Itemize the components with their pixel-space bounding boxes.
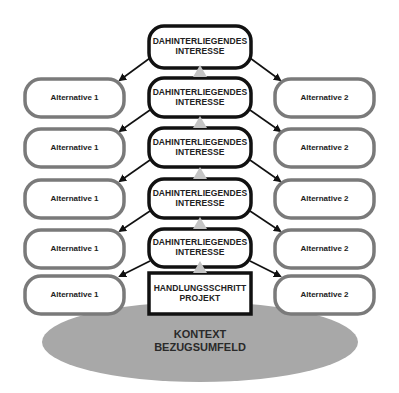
center-node-1: DAHINTERLIEGENDESINTERESSE [150,27,250,67]
center-node-3: DAHINTERLIEGENDESINTERESSE [150,129,250,166]
base-node-label: PROJEKT [154,294,247,304]
left-alternative-5: Alternative 1 [25,276,124,314]
center-node-5: DAHINTERLIEGENDESINTERESSE [150,230,250,266]
right-alternative-4: Alternative 2 [275,230,374,268]
right-alternative-5: Alternative 2 [275,276,374,314]
center-node-label: INTERESSE [153,98,248,108]
center-node-label: INTERESSE [153,148,248,158]
center-node-4: DAHINTERLIEGENDESINTERESSE [150,180,250,217]
center-node-label: INTERESSE [153,248,248,258]
right-alternative-2: Alternative 2 [275,129,374,167]
right-alternative-1: Alternative 2 [275,79,374,117]
left-alternative-4: Alternative 1 [25,230,124,268]
left-alternative-3: Alternative 1 [25,180,124,218]
context-line-1: KONTEXT [154,328,246,341]
right-alternative-3: Alternative 2 [275,180,374,218]
left-alternative-1: Alternative 1 [25,79,124,117]
center-node-label: INTERESSE [153,199,248,209]
base-node: HANDLUNGSSCHRITTPROJEKT [150,274,250,313]
center-node-2: DAHINTERLIEGENDESINTERESSE [150,79,250,116]
context-line-2: BEZUGSUMFELD [154,341,246,354]
context-label: KONTEXTBEZUGSUMFELD [120,326,280,356]
center-node-label: INTERESSE [153,47,248,57]
left-alternative-2: Alternative 1 [25,129,124,167]
